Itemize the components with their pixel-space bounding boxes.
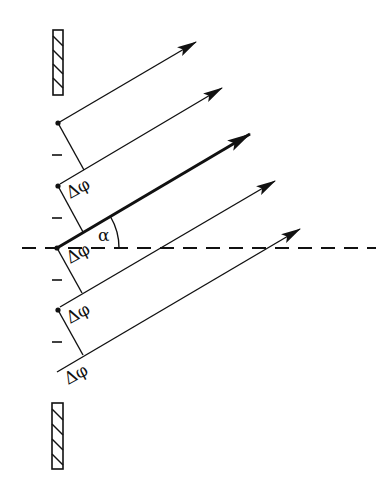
wall-bottom [52, 403, 63, 469]
phase-diff-label-1: Δφ [62, 173, 93, 202]
perpendicular-1 [58, 123, 84, 170]
source-dot-2 [55, 183, 60, 188]
wall-top [53, 30, 63, 95]
angle-arc [110, 217, 119, 249]
phase-diff-label-4: Δφ [60, 359, 91, 388]
wavefront-diagram: α Δφ Δφ Δφ Δφ [0, 0, 385, 499]
diagram-canvas: α Δφ Δφ Δφ Δφ [0, 0, 385, 499]
ray-5 [57, 229, 300, 372]
alpha-label: α [98, 225, 110, 245]
source-dot-1 [55, 120, 60, 125]
source-dot-4 [55, 307, 60, 312]
ray-4 [60, 181, 275, 307]
ray-1 [58, 42, 196, 123]
source-dot-3 [54, 245, 59, 250]
